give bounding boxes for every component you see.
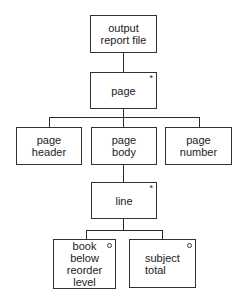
- node-line: * line: [91, 182, 157, 219]
- connector-to-book-below: [86, 230, 87, 239]
- connector-to-page-number: [199, 117, 200, 127]
- iteration-marker-icon: *: [149, 184, 153, 193]
- node-output-report-file: output report file: [90, 15, 157, 53]
- node-label: subject total: [145, 252, 180, 276]
- connector-page-stem: [123, 108, 124, 117]
- node-page-number: page number: [165, 127, 232, 165]
- connector-line-branch: [86, 230, 163, 231]
- connector-to-page-header: [49, 117, 50, 127]
- connector-to-subject-total: [162, 230, 163, 239]
- connector-body-line: [123, 164, 124, 182]
- selection-marker-icon: [187, 243, 192, 248]
- node-page-header: page header: [16, 127, 82, 165]
- node-page-body: page body: [91, 127, 157, 165]
- node-label: page number: [180, 134, 217, 158]
- iteration-marker-icon: *: [149, 74, 153, 83]
- node-label: output report file: [101, 22, 147, 46]
- node-book-below-reorder-level: book below reorder level: [53, 239, 116, 289]
- node-label: book below reorder level: [67, 240, 102, 288]
- node-label: page: [111, 85, 135, 97]
- node-label: page header: [32, 134, 66, 158]
- node-page: * page: [90, 72, 157, 109]
- connector-root-page: [123, 52, 124, 72]
- node-label: page body: [112, 134, 136, 158]
- node-label: line: [115, 195, 132, 207]
- selection-marker-icon: [107, 243, 112, 248]
- connector-to-page-body: [123, 117, 124, 127]
- node-subject-total: subject total: [129, 239, 196, 288]
- connector-page-branch: [49, 117, 200, 118]
- connector-line-stem: [123, 218, 124, 230]
